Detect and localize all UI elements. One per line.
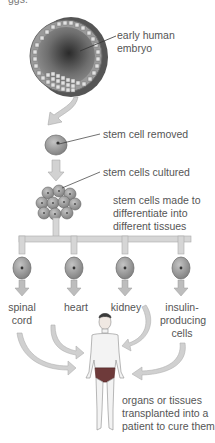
arrow-embryo-to-cell <box>48 97 78 125</box>
arrow-cell-to-culture <box>48 160 64 181</box>
cell-insulin-icon <box>172 257 190 296</box>
cell-kidney-icon <box>116 257 134 296</box>
label-differentiate-line3: different tissues <box>113 220 186 232</box>
cell-spinal-cord-icon <box>13 257 31 296</box>
label-embryo-line1: early human <box>117 29 175 41</box>
label-transplant-line1: organs or tissues <box>122 394 202 406</box>
single-stem-cell-icon <box>45 134 100 155</box>
label-differentiate-line1: stem cells made to <box>113 194 201 206</box>
label-kidney: kidney <box>106 301 146 313</box>
label-transplant-line3: patient to cure them <box>122 420 215 432</box>
label-spinal-line2: cord <box>2 314 42 326</box>
label-insulin-line3: cells <box>160 327 204 339</box>
label-differentiate-line2: differentiate into <box>113 207 188 219</box>
label-insulin-line2: producing <box>158 314 208 326</box>
stem-cell-diagram: ggs. early human embryo stem cell remove… <box>0 0 215 443</box>
cultured-cells-icon <box>36 172 100 220</box>
cutoff-heading: ggs. <box>8 0 28 5</box>
differentiated-cells <box>13 257 190 296</box>
label-transplant-line2: transplanted into a <box>122 407 208 419</box>
label-insulin-line1: insulin- <box>160 301 204 313</box>
label-stem-cell-removed: stem cell removed <box>103 128 188 140</box>
label-embryo-line2: embryo <box>117 42 152 54</box>
embryo-icon <box>30 17 116 97</box>
label-stem-cells-cultured: stem cells cultured <box>103 166 190 178</box>
cell-heart-icon <box>65 257 83 296</box>
label-heart: heart <box>56 301 96 313</box>
patient-figure-icon <box>86 314 124 431</box>
label-spinal-line1: spinal <box>2 301 42 313</box>
